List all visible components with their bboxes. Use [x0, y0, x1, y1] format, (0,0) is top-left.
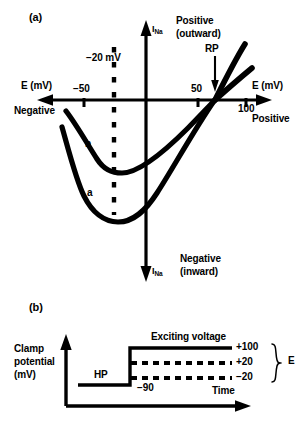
panel-a-x-axis-right-arrowhead	[256, 94, 272, 105]
panel-a-negative-inward-line2: (inward)	[180, 267, 218, 278]
panel-a-rp-arrow	[211, 56, 219, 92]
panel-a-curve-a	[62, 101, 214, 222]
panel-a-y-axis-up-arrowhead	[141, 20, 152, 36]
panel-b-brace	[272, 344, 281, 382]
panel-b-holding-potential-value: −90	[137, 383, 154, 394]
panel-a-tag: (a)	[29, 12, 42, 24]
panel-b-level-label-minus20: −20	[236, 372, 253, 383]
panel-a-rp-label: RP	[205, 44, 219, 55]
figure-root: (a) INa Positive (outward) −20 mV RP E (…	[0, 0, 307, 421]
panel-a-curve-a-label: a	[87, 188, 92, 199]
panel-b-y-axis-label-line1: Clamp	[14, 344, 44, 355]
panel-a-positive-outward-line1: Positive	[176, 16, 214, 27]
panel-b-y-axis-label-line2: potential	[14, 357, 55, 368]
panel-a-tick-label-50: 50	[191, 84, 202, 95]
panel-a-y-axis-bottom-current-label: INa	[152, 267, 163, 277]
panel-a-negative-inward-line1: Negative	[180, 254, 221, 265]
panel-a-x-axis-label-right: E (mV)	[252, 81, 283, 92]
panel-b-exciting-voltage-label: Exciting voltage	[151, 332, 226, 343]
panel-a-curve-a-outward-limb	[215, 44, 245, 100]
panel-a-x-axis-caption-left: Negative	[14, 106, 55, 117]
panel-a-tick-label-100: 100	[238, 104, 254, 115]
panel-b-brace-label: E	[288, 356, 295, 367]
panel-a-y-axis-top-current-subscript: Na	[154, 28, 162, 35]
panel-a-y-axis-down-arrowhead	[141, 266, 152, 282]
panel-b-level-label-plus100: +100	[236, 342, 258, 353]
panel-a-y-axis-bottom-current-subscript: Na	[154, 270, 162, 277]
panel-b-x-axis-arrowhead	[235, 400, 251, 411]
panel-a-dashed-line-label: −20 mV	[86, 53, 121, 64]
panel-b-y-axis-arrowhead	[60, 334, 71, 350]
panel-a-x-axis-caption-right: Positive	[252, 114, 290, 125]
panel-a-x-axis-label-left: E (mV)	[21, 81, 52, 92]
panel-b-x-axis-label: Time	[212, 386, 235, 397]
panel-b-holding-potential-label: HP	[94, 370, 108, 381]
panel-a-curve-b-label: b	[85, 139, 91, 150]
panel-a-x-axis-left-arrowhead	[37, 94, 53, 105]
panel-a-y-axis-top-current-label: INa	[152, 25, 163, 35]
panel-b-level-label-plus20: +20	[236, 357, 253, 368]
panel-a-graphics	[37, 20, 272, 282]
panel-b-tag: (b)	[29, 302, 43, 314]
panel-a-tick-label-minus50: −50	[73, 84, 90, 95]
panel-b-y-axis-label-line3: (mV)	[14, 370, 36, 381]
panel-a-positive-outward-line2: (outward)	[176, 29, 221, 40]
